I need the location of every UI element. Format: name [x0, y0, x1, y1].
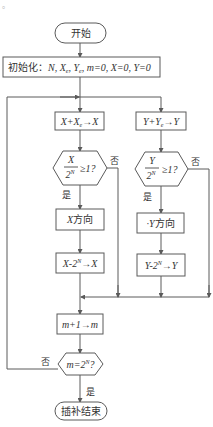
start-label: 开始	[71, 27, 91, 39]
x-add-text: X+Xe→X	[60, 116, 100, 128]
m-cond-q: ?	[90, 359, 95, 370]
y-sub-rhs: →Y	[162, 260, 179, 271]
y-add-lhs: Y+Y	[143, 116, 162, 127]
x-add-lhs: X+X	[60, 116, 81, 127]
edge-mcond-loopback	[7, 97, 58, 369]
y-yes-label: 是	[143, 192, 152, 202]
x-accumulate-process: X+Xe→X	[55, 112, 104, 130]
edge-ycond-no	[188, 169, 209, 297]
x-no-label: 否	[110, 156, 119, 166]
y-sub-text: Y-2N→Y	[145, 260, 179, 271]
x-overflow-decision: X 2N ≥1?	[53, 151, 107, 185]
flowchart: 。 开始 初始化：N, Xe, Ye, m=0,	[0, 0, 213, 427]
x-yes-label: 是	[62, 190, 71, 200]
x-subtract-process: X-2N→X	[56, 253, 104, 273]
y-subtract-process: Y-2N→Y	[137, 254, 185, 276]
end-terminal: 插补结束	[55, 402, 107, 420]
y-no-label: 否	[191, 157, 200, 167]
x-cond-relation: ≥1?	[80, 163, 96, 174]
init-process: 初始化：N, Xe, Ye, m=0, X=0, Y=0	[3, 57, 160, 77]
x-sub-rhs: →X	[81, 258, 98, 269]
m-increment-process: m+1→m	[57, 314, 103, 334]
edge-xcond-no	[107, 168, 118, 297]
m-inc-text: m+1→m	[62, 319, 98, 330]
y-add-rhs: →Y	[163, 116, 180, 127]
m-yes-label: 是	[86, 387, 95, 397]
y-dir-text: ·Y方向	[146, 217, 174, 229]
end-label: 插补结束	[61, 405, 101, 417]
x-sub-lhs: X-2	[62, 258, 77, 269]
y-dir-label: 方向	[155, 217, 175, 229]
x-dir-text: X方向	[66, 213, 93, 225]
init-rest: , m=0, X=0, Y=0	[82, 62, 151, 73]
start-terminal: 开始	[55, 23, 106, 43]
y-overflow-decision: Y 2N ≥1?	[135, 152, 188, 186]
m-termination-decision: m=2N?	[58, 353, 103, 375]
m-no-label: 否	[41, 357, 50, 367]
corner-mark: 。	[2, 1, 10, 10]
y-accumulate-process: Y+Ye→Y	[136, 112, 186, 130]
x-direction-process: X方向	[56, 209, 104, 230]
init-prefix: 初始化：	[8, 61, 48, 73]
m-cond-text: m=2N?	[67, 359, 95, 370]
y-sub-lhs: Y-2	[145, 260, 158, 271]
x-cond-numerator: X	[67, 154, 75, 165]
y-cond-relation: ≥1?	[162, 164, 178, 175]
x-add-rhs: →X	[82, 116, 99, 127]
m-cond-lhs: m=2	[67, 359, 86, 370]
x-dir-label: 方向	[73, 213, 93, 225]
init-vars: N, X	[47, 62, 67, 73]
y-direction-process: ·Y方向	[137, 213, 184, 233]
